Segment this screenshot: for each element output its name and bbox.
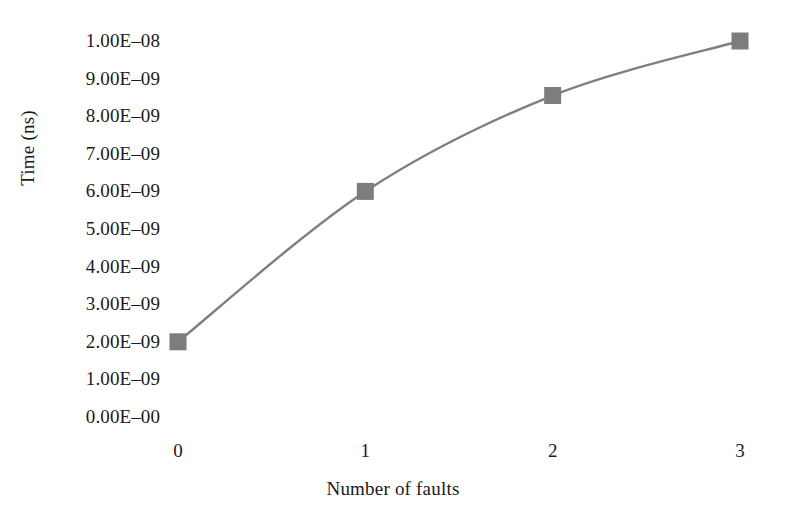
x-axis-tick-labels: 0123 [0, 0, 786, 520]
x-axis-tick-label: 0 [148, 440, 208, 462]
chart-page: Time (ns) 1.00E–089.00E–098.00E–097.00E–… [0, 0, 786, 520]
x-axis-title: Number of faults [0, 477, 786, 501]
x-axis-tick-label: 2 [523, 440, 583, 462]
x-axis-tick-label: 3 [710, 440, 770, 462]
x-axis-tick-label: 1 [335, 440, 395, 462]
